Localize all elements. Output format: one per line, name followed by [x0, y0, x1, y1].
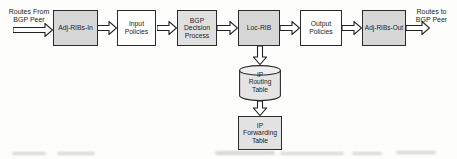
node-label: BGP Decision Process — [184, 17, 210, 40]
node-label: Input Policies — [125, 20, 148, 35]
arrow-right-icon — [97, 21, 117, 35]
routes-from-bgp-peer-label: Routes From BGP Peer — [2, 8, 56, 23]
node-adj-ribs-out: Adj-RIBs-Out — [362, 10, 406, 46]
arrow-down-icon — [253, 46, 267, 65]
arrow-down-icon — [253, 101, 267, 116]
bgp-flow-diagram: Routes From BGP Peer Routes to BGP Peer … — [0, 0, 457, 159]
arrow-right-icon — [217, 21, 238, 35]
arrow-right-icon — [342, 21, 362, 35]
node-bgp-decision-process: BGP Decision Process — [177, 10, 217, 46]
node-label: IP Forwarding Table — [243, 122, 277, 145]
node-label: Loc-RIB — [247, 24, 272, 32]
scan-artifact-dash — [215, 151, 275, 155]
node-loc-rib: Loc-RIB — [238, 10, 280, 46]
arrow-right-icon — [13, 23, 53, 37]
arrow-right-icon — [280, 21, 300, 35]
scan-artifact-dash — [280, 152, 344, 155]
node-label: Adj-RIBs-Out — [365, 24, 403, 32]
scan-artifact-dash — [57, 152, 95, 155]
node-ip-routing-table-label: IP Routing Table — [239, 71, 281, 93]
scan-artifact-dash — [12, 152, 46, 155]
node-output-policies: Output Policies — [300, 10, 342, 46]
node-input-policies: Input Policies — [117, 10, 156, 46]
scan-artifact-dash — [352, 152, 382, 155]
arrow-right-icon — [157, 21, 177, 35]
node-label: Output Policies — [309, 20, 332, 35]
arrow-right-icon — [406, 21, 430, 35]
scan-artifact-dash — [396, 151, 436, 154]
node-ip-forwarding-table: IP Forwarding Table — [238, 116, 282, 150]
node-label: Adj-RIBs-In — [58, 24, 93, 32]
node-adj-ribs-in: Adj-RIBs-In — [53, 10, 98, 46]
